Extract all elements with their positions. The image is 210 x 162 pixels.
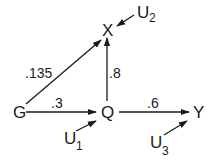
coef-g-q: .3 [51,95,63,111]
node-g: G [13,103,26,122]
svg-text:U: U [64,129,76,148]
path-diagram: .135 .3 .8 .6 X G Q Y U 2 U 1 U 3 [0,0,210,162]
edge-u1-to-q [76,121,96,131]
svg-text:2: 2 [149,11,156,25]
coef-g-x: .135 [25,65,52,81]
node-u1: U 1 [64,129,83,153]
edge-u2-to-x [117,15,134,26]
svg-text:U: U [150,133,162,152]
node-x: X [102,21,113,40]
svg-text:3: 3 [162,144,169,158]
edge-u3-to-y [164,121,187,135]
svg-text:1: 1 [76,139,83,153]
svg-text:U: U [137,3,149,22]
node-u3: U 3 [150,133,169,158]
node-y: Y [193,103,204,122]
coef-q-x: .8 [109,65,121,81]
node-q: Q [101,103,114,122]
coef-q-y: .6 [147,95,159,111]
node-u2: U 2 [137,3,156,25]
